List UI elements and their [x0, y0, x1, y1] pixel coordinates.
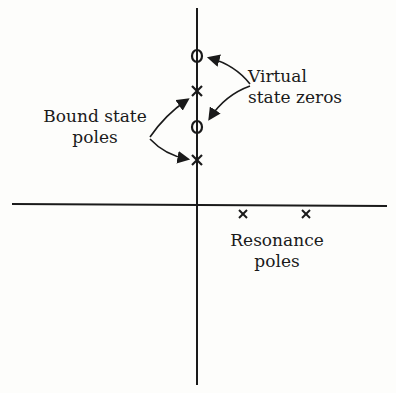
arrow-to-pole-lower — [150, 139, 187, 159]
label-line: poles — [222, 251, 332, 272]
label-line: Bound state — [40, 106, 150, 127]
resonance-poles-label: Resonance poles — [222, 230, 332, 272]
diagram-graphics — [0, 0, 396, 393]
pole-zero-diagram: Virtual state zeros Bound state poles Re… — [0, 0, 396, 393]
virtual-state-zeros-label: Virtual state zeros — [248, 66, 342, 108]
arrow-to-zero-lower — [210, 86, 250, 118]
resonance-pole-marker — [239, 210, 247, 218]
label-line: Resonance — [222, 230, 332, 251]
resonance-pole-marker — [302, 210, 310, 218]
bound-state-poles-label: Bound state poles — [40, 106, 150, 148]
label-line: poles — [40, 127, 150, 148]
label-line: state zeros — [248, 87, 342, 108]
arrow-to-zero-upper — [210, 58, 250, 84]
real-axis — [12, 204, 387, 206]
label-line: Virtual — [248, 66, 342, 87]
arrow-to-pole-upper — [150, 100, 187, 137]
